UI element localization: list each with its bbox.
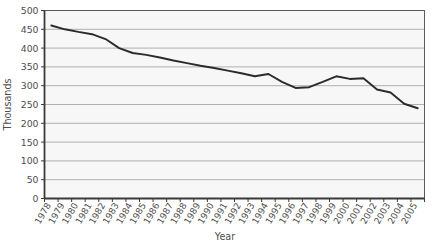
y-axis-title: Thousands (2, 79, 13, 132)
y-tick-label-150: 150 (21, 137, 39, 148)
y-tick-label-100: 100 (21, 155, 39, 166)
y-tick-label-0: 0 (33, 193, 39, 204)
y-axis-title-text: Thousands (2, 79, 13, 132)
y-tick-label-350: 350 (21, 61, 39, 72)
y-tick-label-400: 400 (21, 43, 39, 54)
x-axis-tick-labels: 1978197919801981198219831984198519861987… (33, 201, 420, 226)
line-chart: 050100150200250300350400450500 197819791… (0, 0, 435, 248)
y-tick-label-200: 200 (21, 118, 39, 129)
y-tick-label-300: 300 (21, 80, 39, 91)
y-tick-label-50: 50 (27, 174, 39, 185)
y-tick-label-500: 500 (21, 5, 39, 16)
y-axis-tick-labels: 050100150200250300350400450500 (21, 5, 39, 204)
x-axis-title: Year (214, 231, 235, 242)
y-tick-label-450: 450 (21, 24, 39, 35)
y-tick-label-250: 250 (21, 99, 39, 110)
chart-canvas: 050100150200250300350400450500 197819791… (0, 0, 435, 248)
x-axis-title-text: Year (214, 231, 235, 242)
